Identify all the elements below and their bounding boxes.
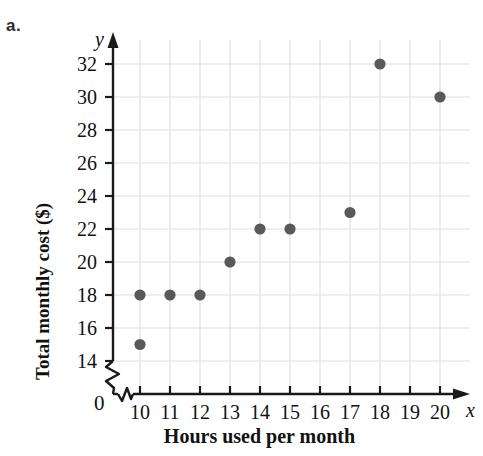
x-tick-label: 11 (153, 402, 187, 422)
y-tick-label: 24 (57, 186, 97, 206)
data-point (134, 289, 145, 300)
y-tick-label: 28 (57, 120, 97, 140)
y-tick-label: 18 (57, 285, 97, 305)
data-point (254, 223, 265, 234)
x-tick-label: 20 (423, 402, 457, 422)
y-tick-label: 30 (57, 87, 97, 107)
x-tick-label: 19 (393, 402, 427, 422)
y-tick-label: 26 (57, 153, 97, 173)
data-point (194, 289, 205, 300)
data-point (434, 91, 445, 102)
y-tick-label: 20 (57, 252, 97, 272)
data-point (164, 289, 175, 300)
data-point (284, 223, 295, 234)
scatter-plot-figure: a. Total monthly cost ($) Hours used per… (0, 0, 483, 456)
y-tick-label: 32 (57, 54, 97, 74)
x-tick-label: 10 (123, 402, 157, 422)
data-point (374, 58, 385, 69)
x-axis-variable-label: x (466, 399, 475, 422)
data-point (224, 256, 235, 267)
gridlines (113, 40, 470, 394)
y-tick-label: 16 (57, 318, 97, 338)
x-tick-label: 14 (243, 402, 277, 422)
x-tick-label: 12 (183, 402, 217, 422)
y-axis-variable-label: y (95, 28, 104, 51)
origin-label: 0 (94, 391, 105, 416)
x-tick-label: 16 (303, 402, 337, 422)
axis-lines (106, 32, 470, 401)
x-tick-label: 17 (333, 402, 367, 422)
data-point (344, 207, 355, 218)
x-tick-label: 15 (273, 402, 307, 422)
data-point (134, 339, 145, 350)
x-tick-label: 18 (363, 402, 397, 422)
y-tick-label: 22 (57, 219, 97, 239)
x-tick-label: 13 (213, 402, 247, 422)
y-tick-label: 14 (57, 351, 97, 371)
